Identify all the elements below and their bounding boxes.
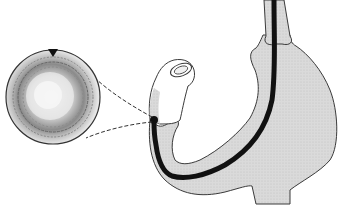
medical-illustration — [0, 0, 346, 205]
endoscopy-diagram — [0, 0, 346, 205]
duodenum — [149, 59, 194, 124]
magnified-view-inset — [6, 49, 100, 144]
esophagus — [264, 0, 292, 45]
endoscope-tip — [150, 116, 158, 124]
